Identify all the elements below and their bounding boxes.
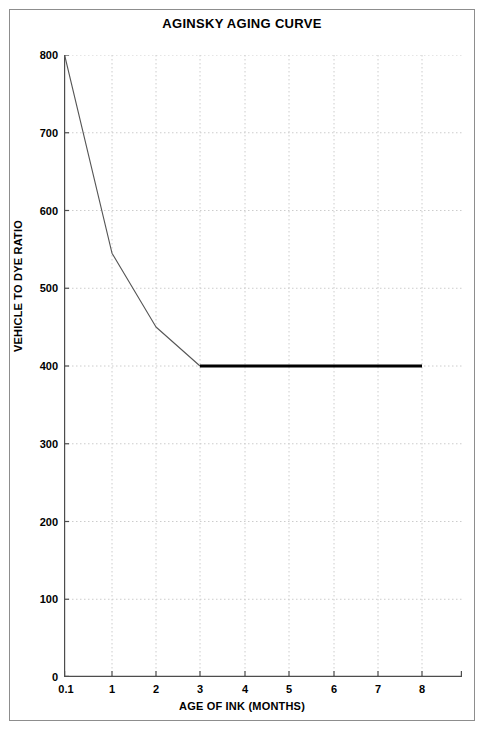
y-tick-200: 200 (16, 516, 58, 528)
horizontal-gridlines (64, 55, 462, 599)
y-axis-label: VEHICLE TO DYE RATIO (12, 216, 24, 356)
y-tick-700: 700 (16, 127, 58, 139)
x-tick-3: 3 (180, 683, 220, 695)
x-tick-6: 6 (314, 683, 354, 695)
chart-figure: AGINSKY AGING CURVE 0 100 200 300 400 50… (0, 0, 487, 736)
y-tick-800: 800 (16, 49, 58, 61)
x-axis-spine (64, 671, 462, 677)
y-tick-100: 100 (16, 593, 58, 605)
y-tick-400: 400 (16, 360, 58, 372)
x-axis-tick-labels: 0.1 1 2 3 4 5 6 7 8 (64, 683, 462, 701)
x-tick-4: 4 (225, 683, 265, 695)
y-axis-tick-labels: 0 100 200 300 400 500 600 700 800 (12, 55, 58, 677)
y-tick-300: 300 (16, 438, 58, 450)
y-axis-spine (64, 55, 69, 677)
x-tick-8: 8 (402, 683, 442, 695)
x-tick-5: 5 (269, 683, 309, 695)
x-tick-7: 7 (358, 683, 398, 695)
x-tick-0.1: 0.1 (46, 683, 86, 695)
plot-svg (64, 55, 462, 677)
x-tick-1: 1 (92, 683, 132, 695)
x-tick-2: 2 (136, 683, 176, 695)
plot-area (64, 55, 462, 677)
x-axis-label: AGE OF INK (MONTHS) (9, 700, 475, 712)
y-tick-0: 0 (16, 671, 58, 683)
chart-title: AGINSKY AGING CURVE (9, 16, 475, 31)
y-tick-600: 600 (16, 205, 58, 217)
